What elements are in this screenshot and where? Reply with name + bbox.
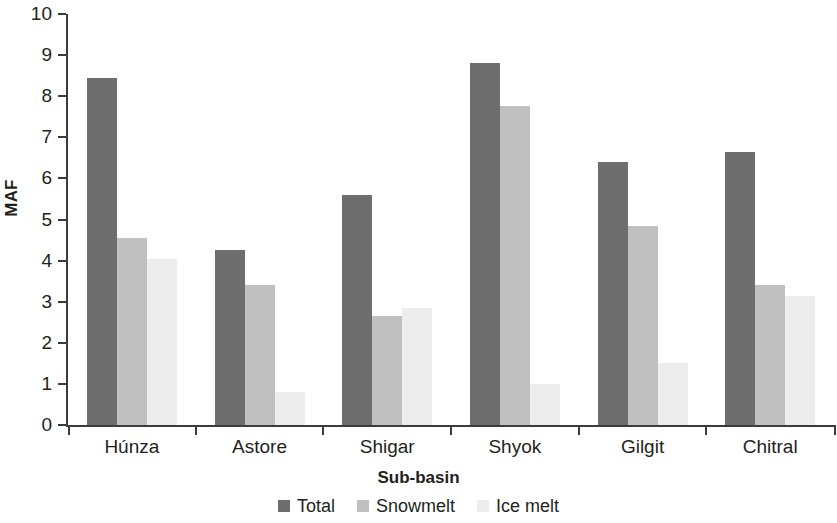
bar-snowmelt <box>628 226 658 425</box>
x-axis-category-tick <box>705 425 707 435</box>
bar-groups <box>68 14 834 425</box>
x-axis-title: Sub-basin <box>0 468 837 488</box>
x-axis-category-tick <box>578 425 580 435</box>
legend-swatch-icon <box>357 500 369 512</box>
y-axis-tick-label: 2 <box>8 333 52 352</box>
bar-group-bars <box>215 14 305 425</box>
x-axis-category-tick <box>195 425 197 435</box>
x-axis-tick-labels: HúnzaAstoreShigarShyokGilgitChitral <box>68 436 834 458</box>
y-axis-tick <box>58 177 66 179</box>
bar-group <box>196 14 324 425</box>
bar-icemelt <box>402 308 432 425</box>
x-axis-category-tick <box>834 425 836 435</box>
bar-group-bars <box>725 14 815 425</box>
bar-chart: MAF 012345678910 HúnzaAstoreShigarShyokG… <box>0 0 837 523</box>
bar-icemelt <box>275 392 305 425</box>
y-axis-tick <box>58 219 66 221</box>
bar-group <box>68 14 196 425</box>
y-axis-tick-labels: 012345678910 <box>8 14 52 425</box>
y-axis-tick <box>58 95 66 97</box>
y-axis-tick-label: 7 <box>8 127 52 146</box>
chart-legend: TotalSnowmeltIce melt <box>0 497 837 515</box>
x-axis-tick-label: Chitral <box>706 436 834 458</box>
legend-item: Total <box>278 497 335 515</box>
y-axis-tick-label: 9 <box>8 45 52 64</box>
x-axis-tick-label: Shigar <box>323 436 451 458</box>
legend-label: Snowmelt <box>376 497 455 515</box>
y-axis-tick <box>58 424 66 426</box>
y-axis-tick-label: 0 <box>8 415 52 434</box>
bar-icemelt <box>530 384 560 425</box>
y-axis-tick <box>58 54 66 56</box>
bar-snowmelt <box>245 285 275 425</box>
y-axis-tick-label: 1 <box>8 374 52 393</box>
bar-group-bars <box>342 14 432 425</box>
legend-item: Ice melt <box>477 497 559 515</box>
y-axis-tick <box>58 260 66 262</box>
bar-snowmelt <box>500 106 530 425</box>
y-axis-tick <box>58 301 66 303</box>
bar-total <box>87 78 117 425</box>
y-axis-tick <box>58 13 66 15</box>
legend-label: Total <box>297 497 335 515</box>
bar-icemelt <box>658 363 688 425</box>
x-axis-tick-label: Astore <box>196 436 324 458</box>
bar-group <box>323 14 451 425</box>
y-axis-tick-label: 8 <box>8 86 52 105</box>
legend-swatch-icon <box>477 500 489 512</box>
legend-item: Snowmelt <box>357 497 455 515</box>
legend-label: Ice melt <box>496 497 559 515</box>
x-axis-category-tick <box>322 425 324 435</box>
bar-total <box>470 63 500 425</box>
y-axis-tick-label: 5 <box>8 210 52 229</box>
x-axis-category-tick <box>68 425 70 435</box>
bar-group-bars <box>470 14 560 425</box>
x-axis-tick-label: Shyok <box>451 436 579 458</box>
y-axis-tick <box>58 136 66 138</box>
y-axis-tick-label: 6 <box>8 168 52 187</box>
bar-snowmelt <box>117 238 147 425</box>
bar-group <box>706 14 834 425</box>
bar-group <box>451 14 579 425</box>
bar-total <box>598 162 628 425</box>
x-axis-tick-label: Gilgit <box>579 436 707 458</box>
bar-total <box>725 152 755 425</box>
bar-snowmelt <box>372 316 402 425</box>
bar-group <box>579 14 707 425</box>
plot-area <box>66 14 834 425</box>
y-axis-tick-label: 3 <box>8 292 52 311</box>
x-axis-tick-label: Húnza <box>68 436 196 458</box>
bar-group-bars <box>598 14 688 425</box>
y-axis-tick-label: 4 <box>8 251 52 270</box>
bar-total <box>342 195 372 425</box>
bar-icemelt <box>785 296 815 425</box>
legend-swatch-icon <box>278 500 290 512</box>
y-axis-tick <box>58 383 66 385</box>
y-axis-tick <box>58 342 66 344</box>
x-axis-category-tick <box>450 425 452 435</box>
bar-total <box>215 250 245 425</box>
bar-icemelt <box>147 259 177 425</box>
y-axis-tick-label: 10 <box>8 4 52 23</box>
bar-group-bars <box>87 14 177 425</box>
bar-snowmelt <box>755 285 785 425</box>
